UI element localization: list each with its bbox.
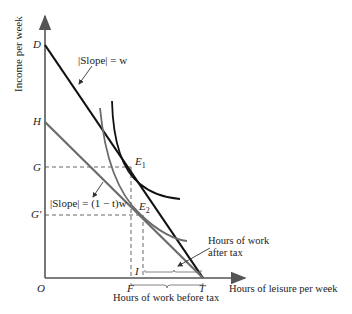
bracket-after-tax [145, 270, 201, 272]
label-D: D [32, 38, 41, 50]
bracket-before-tax [131, 283, 203, 288]
annotation-slope-1-t-w: |Slope| = (1 − t)w [50, 197, 127, 210]
label-H: H [32, 115, 42, 127]
indifference-curve-high [112, 101, 180, 199]
annotation-work-after-tax-1: Hours of work [208, 235, 270, 246]
labor-supply-diagram: Income per week D H G G' O F I T E1 E2 |… [0, 0, 352, 314]
label-I: I [134, 265, 140, 277]
arrow-slope-1-t-w [93, 182, 103, 197]
y-axis-title: Income per week [12, 16, 24, 92]
label-E1: E1 [134, 155, 146, 170]
label-O: O [37, 282, 45, 294]
annotation-work-after-tax-2: after tax [208, 247, 243, 258]
annotation-work-before-tax: Hours of work before tax [113, 292, 220, 303]
x-axis-title: Hours of leisure per week [229, 283, 338, 294]
label-G: G [33, 161, 41, 173]
arrow-slope-w [79, 66, 92, 84]
label-G-prime: G' [31, 208, 42, 220]
indifference-curve-low [100, 108, 187, 241]
annotation-slope-w: |Slope| = w [78, 54, 127, 66]
